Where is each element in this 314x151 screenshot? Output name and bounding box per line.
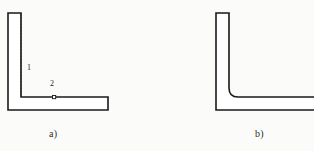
panel-a-geometry	[8, 13, 108, 110]
figure-container: 1 2 a) b)	[0, 0, 314, 151]
panel-caption-a: a)	[49, 128, 57, 139]
annotation-label-1: 1	[27, 63, 31, 72]
l-profile-outline-a	[8, 13, 108, 110]
technical-drawing-svg	[0, 0, 314, 151]
l-profile-outline-b	[216, 13, 314, 110]
annotation-label-2: 2	[50, 79, 54, 88]
panel-caption-b: b)	[255, 128, 264, 139]
panel-b-geometry	[216, 13, 314, 110]
point-marker-2	[53, 96, 56, 99]
